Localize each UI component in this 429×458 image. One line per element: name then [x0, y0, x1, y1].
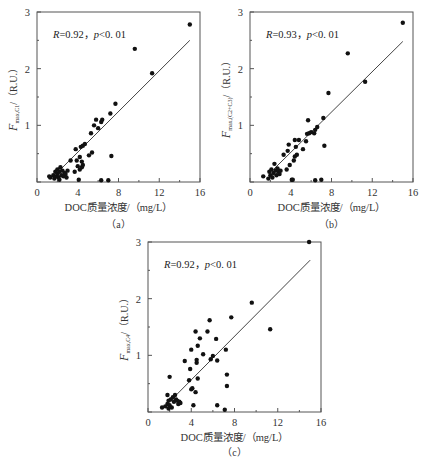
data-point — [77, 178, 81, 182]
data-point — [188, 22, 192, 26]
data-point — [191, 403, 195, 407]
data-point — [285, 149, 289, 153]
data-point — [306, 118, 310, 122]
data-point — [294, 145, 298, 149]
data-point — [89, 131, 93, 135]
data-point — [223, 408, 227, 412]
y-tick-label: 3 — [136, 237, 141, 248]
y-tick-label: 1 — [238, 120, 243, 131]
y-axis-label: Fmax,C1/（R.U.） — [6, 63, 20, 132]
data-point — [272, 162, 276, 166]
x-tick-label: 12 — [273, 417, 284, 428]
data-point — [109, 154, 113, 158]
data-point — [201, 352, 205, 356]
x-tick-label: 0 — [247, 187, 252, 198]
data-point — [346, 51, 350, 55]
data-point — [194, 358, 198, 362]
data-point — [150, 71, 154, 75]
regression-line — [273, 41, 402, 169]
data-point — [99, 178, 103, 182]
data-point — [268, 327, 272, 331]
y-tick-label: 2 — [136, 294, 141, 305]
data-point — [198, 336, 202, 340]
scatter-panel-b: 0481216123R=0.93，p<0. 01DOC质量浓度/（mg/L）Fm… — [219, 7, 418, 230]
data-point — [90, 150, 94, 154]
data-point — [250, 300, 254, 304]
regression-line — [173, 260, 310, 398]
data-point — [292, 158, 296, 162]
data-point — [293, 138, 297, 142]
data-point — [307, 240, 311, 244]
data-point — [57, 178, 61, 182]
x-tick-label: 4 — [75, 187, 81, 198]
x-axis-label: DOC质量浓度/（mg/L） — [65, 201, 173, 213]
data-point — [297, 138, 301, 142]
regression-line — [60, 40, 189, 169]
data-point — [178, 401, 182, 405]
data-point — [281, 153, 285, 157]
x-tick-label: 4 — [288, 187, 294, 198]
data-point — [106, 178, 110, 182]
data-point — [287, 142, 291, 146]
data-point — [196, 344, 200, 348]
x-tick-label: 4 — [189, 417, 195, 428]
data-point — [224, 347, 228, 351]
data-point — [78, 155, 82, 159]
y-tick-label: 3 — [25, 7, 30, 18]
x-tick-label: 8 — [232, 417, 237, 428]
data-point — [319, 178, 323, 182]
data-point — [270, 175, 274, 179]
data-point — [313, 178, 317, 182]
data-point — [81, 163, 85, 167]
x-tick-label: 12 — [367, 187, 378, 198]
data-point — [193, 390, 197, 394]
data-point — [75, 158, 79, 162]
y-axis-label: Fmax,C4/（R.U.） — [117, 293, 131, 362]
data-point — [214, 337, 218, 341]
x-axis-label: DOC质量浓度/（mg/L） — [181, 431, 289, 443]
y-axis-label: Fmax,(C2+C3)/（R.U.） — [219, 56, 234, 139]
data-point — [211, 354, 215, 358]
y-tick-label: 1 — [25, 120, 30, 131]
data-point — [225, 372, 229, 376]
correlation-annotation: R=0.93，p<0. 01 — [265, 29, 339, 40]
x-tick-label: 8 — [116, 187, 121, 198]
data-point — [304, 139, 308, 143]
x-tick-label: 16 — [316, 417, 327, 428]
data-point — [133, 47, 137, 51]
x-tick-label: 12 — [154, 187, 165, 198]
data-point — [189, 347, 193, 351]
data-point — [65, 168, 69, 172]
correlation-annotation: R=0.92，p<0. 01 — [52, 29, 126, 40]
panel-caption: （b） — [319, 219, 344, 230]
data-point — [108, 111, 112, 115]
panel-caption: （a） — [106, 219, 130, 230]
data-point — [301, 147, 305, 151]
panel-caption: （c） — [222, 447, 246, 458]
data-point — [94, 117, 98, 121]
scatter-panel-c: 0481216123R=0.92，p<0. 01DOC质量浓度/（mg/L）Fm… — [117, 237, 326, 458]
data-point — [83, 142, 87, 146]
data-point — [187, 378, 191, 382]
data-point — [321, 116, 325, 120]
data-point — [291, 178, 295, 182]
data-point — [173, 393, 177, 397]
data-point — [113, 102, 117, 106]
data-point — [215, 358, 219, 362]
x-tick-label: 0 — [34, 187, 39, 198]
data-point — [315, 125, 319, 129]
x-tick-label: 16 — [408, 187, 419, 198]
y-tick-label: 1 — [136, 350, 141, 361]
data-point — [326, 91, 330, 95]
data-point — [322, 144, 326, 148]
data-point — [363, 80, 367, 84]
data-point — [68, 158, 72, 162]
data-point — [205, 329, 209, 333]
data-point — [170, 405, 174, 409]
y-tick-label: 2 — [238, 64, 243, 75]
data-point — [207, 318, 211, 322]
data-point — [401, 21, 405, 25]
data-point — [215, 403, 219, 407]
data-point — [74, 147, 78, 151]
data-point — [183, 359, 187, 363]
